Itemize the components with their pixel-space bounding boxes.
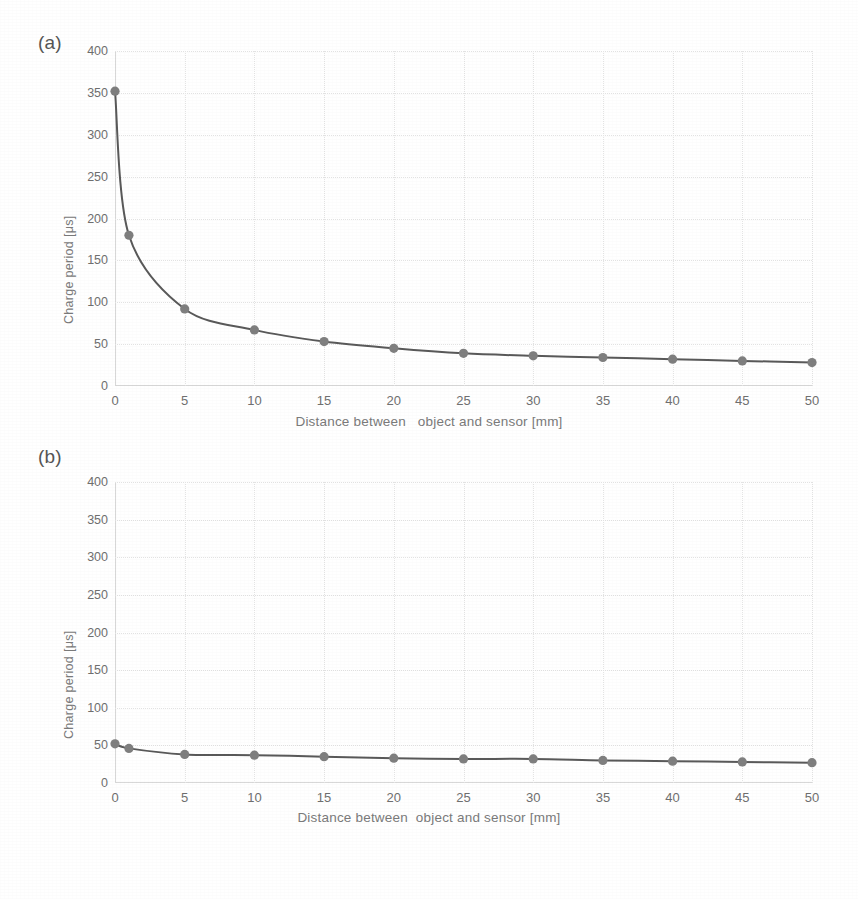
y-tick-label: 0 bbox=[101, 379, 108, 393]
y-tick-label: 250 bbox=[87, 588, 108, 602]
data-point-marker bbox=[389, 754, 398, 763]
gridline-vertical bbox=[812, 482, 813, 783]
data-point-marker bbox=[320, 337, 329, 346]
y-tick-label: 350 bbox=[87, 513, 108, 527]
y-tick-label: 400 bbox=[87, 475, 108, 489]
y-tick-label: 100 bbox=[87, 295, 108, 309]
data-point-marker bbox=[110, 87, 119, 96]
data-point-marker bbox=[250, 325, 259, 334]
x-tick-label: 50 bbox=[805, 393, 819, 408]
y-tick-label: 200 bbox=[87, 626, 108, 640]
data-point-marker bbox=[459, 349, 468, 358]
x-tick-label: 35 bbox=[596, 790, 610, 805]
x-tick-label: 20 bbox=[387, 790, 401, 805]
x-tick-label: 45 bbox=[735, 393, 749, 408]
data-point-marker bbox=[668, 757, 677, 766]
y-tick-label: 100 bbox=[87, 701, 108, 715]
y-tick-label: 150 bbox=[87, 663, 108, 677]
x-tick-label: 25 bbox=[456, 790, 470, 805]
x-tick-label: 5 bbox=[181, 790, 188, 805]
y-tick-label: 300 bbox=[87, 128, 108, 142]
chart-panel-b: (b) Charge period [μs] 05010015020025030… bbox=[0, 444, 858, 894]
data-point-marker bbox=[598, 353, 607, 362]
y-axis-title-b: Charge period [μs] bbox=[62, 631, 76, 740]
data-point-marker bbox=[124, 231, 133, 240]
x-tick-label: 45 bbox=[735, 790, 749, 805]
x-tick-label: 10 bbox=[247, 393, 261, 408]
y-tick-label: 150 bbox=[87, 253, 108, 267]
y-tick-label: 200 bbox=[87, 212, 108, 226]
series-line-a bbox=[115, 51, 812, 386]
x-tick-label: 15 bbox=[317, 393, 331, 408]
plot-area-a: 050100150200250300350400 051015202530354… bbox=[115, 51, 812, 386]
x-tick-label: 20 bbox=[387, 393, 401, 408]
x-tick-label: 0 bbox=[111, 790, 118, 805]
data-line bbox=[115, 91, 812, 362]
x-tick-label: 30 bbox=[526, 790, 540, 805]
data-point-marker bbox=[598, 756, 607, 765]
x-tick-label: 0 bbox=[111, 393, 118, 408]
panel-label-a: (a) bbox=[38, 32, 62, 54]
data-point-marker bbox=[529, 754, 538, 763]
gridline-vertical bbox=[812, 51, 813, 386]
x-tick-label: 50 bbox=[805, 790, 819, 805]
x-tick-label: 35 bbox=[596, 393, 610, 408]
x-tick-label: 30 bbox=[526, 393, 540, 408]
y-tick-label: 50 bbox=[94, 337, 108, 351]
data-point-marker bbox=[180, 750, 189, 759]
y-tick-label: 50 bbox=[94, 738, 108, 752]
data-point-marker bbox=[389, 344, 398, 353]
y-tick-label: 350 bbox=[87, 86, 108, 100]
x-tick-label: 10 bbox=[247, 790, 261, 805]
x-axis-title-a: Distance between object and sensor [mm] bbox=[0, 414, 858, 429]
series-line-b bbox=[115, 482, 812, 783]
x-tick-label: 15 bbox=[317, 790, 331, 805]
y-tick-label: 300 bbox=[87, 550, 108, 564]
data-point-marker bbox=[320, 752, 329, 761]
chart-panel-a: (a) Charge period [μs] 05010015020025030… bbox=[0, 24, 858, 444]
data-point-marker bbox=[110, 739, 119, 748]
x-axis-title-b: Distance between object and sensor [mm] bbox=[0, 810, 858, 825]
figure-container: (a) Charge period [μs] 05010015020025030… bbox=[0, 0, 858, 899]
data-point-marker bbox=[668, 355, 677, 364]
y-tick-label: 400 bbox=[87, 44, 108, 58]
data-point-marker bbox=[807, 758, 816, 767]
data-point-marker bbox=[807, 358, 816, 367]
x-tick-label: 5 bbox=[181, 393, 188, 408]
x-tick-label: 25 bbox=[456, 393, 470, 408]
data-point-marker bbox=[124, 744, 133, 753]
y-tick-label: 0 bbox=[101, 776, 108, 790]
data-point-marker bbox=[180, 304, 189, 313]
x-tick-label: 40 bbox=[665, 790, 679, 805]
data-point-marker bbox=[250, 751, 259, 760]
data-point-marker bbox=[529, 351, 538, 360]
panel-label-b: (b) bbox=[38, 446, 62, 468]
plot-area-b: 050100150200250300350400 051015202530354… bbox=[115, 482, 812, 783]
y-tick-label: 250 bbox=[87, 170, 108, 184]
x-tick-label: 40 bbox=[665, 393, 679, 408]
data-point-marker bbox=[738, 757, 747, 766]
y-axis-title-a: Charge period [μs] bbox=[62, 216, 76, 325]
data-point-marker bbox=[459, 754, 468, 763]
data-point-marker bbox=[738, 356, 747, 365]
